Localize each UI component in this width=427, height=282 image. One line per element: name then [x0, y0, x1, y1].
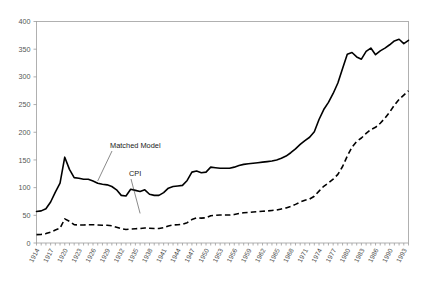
series-line-cpi	[37, 91, 409, 235]
x-tick-label: 1932	[112, 247, 125, 264]
x-tick-label: 1953	[211, 247, 224, 264]
plot-area-frame	[37, 22, 409, 244]
x-tick-label: 1917	[42, 247, 55, 264]
x-tick-label: 1929	[98, 247, 111, 264]
x-tick-label: 1941	[155, 247, 168, 264]
y-axis-labels: 050100150200250300350400	[19, 17, 31, 248]
x-tick-label: 1971	[296, 247, 309, 264]
y-tick-label: 300	[19, 72, 31, 81]
x-tick-label: 1926	[84, 247, 97, 264]
x-tick-label: 1956	[225, 247, 238, 264]
x-tick-label: 1914	[28, 247, 41, 264]
x-tick-label: 1950	[197, 247, 210, 264]
annotation-leader-cpi	[131, 179, 140, 213]
line-chart: 050100150200250300350400 191419171920192…	[0, 0, 427, 282]
x-tick-label: 1944	[169, 247, 182, 264]
y-tick-label: 0	[27, 239, 31, 248]
x-tick-label: 1938	[141, 247, 154, 264]
x-tick-label: 1974	[310, 247, 323, 264]
x-tick-label: 1977	[324, 247, 337, 264]
x-tick-label: 1986	[367, 247, 380, 264]
x-tick-label: 1990	[381, 247, 394, 264]
x-tick-label: 1993	[395, 247, 408, 264]
y-tick-label: 400	[19, 17, 31, 26]
x-tick-label: 1962	[254, 247, 267, 264]
y-tick-label: 200	[19, 128, 31, 137]
y-tick-label: 100	[19, 183, 31, 192]
x-tick-label: 1980	[338, 247, 351, 264]
x-tick-label: 1935	[126, 247, 139, 264]
y-tick-label: 350	[19, 45, 31, 54]
y-tick-label: 150	[19, 156, 31, 165]
x-tick-label: 1983	[352, 247, 365, 264]
x-tick-label: 1965	[268, 247, 281, 264]
series-line-matched-model	[37, 39, 409, 211]
annotation-leader-matched-model	[98, 151, 112, 181]
y-tick-label: 250	[19, 100, 31, 109]
x-tick-label: 1923	[70, 247, 83, 264]
annotation-label-matched-model: Matched Model	[110, 141, 161, 150]
x-tick-label: 1968	[282, 247, 295, 264]
chart-container: 050100150200250300350400 191419171920192…	[0, 0, 427, 282]
annotation-label-cpi: CPI	[129, 169, 141, 178]
x-axis-labels: 1914191719201923192619291932193519381941…	[28, 247, 409, 264]
x-tick-label: 1959	[239, 247, 252, 264]
y-tick-label: 50	[23, 211, 31, 220]
x-tick-label: 1947	[183, 247, 196, 264]
x-tick-label: 1920	[56, 247, 69, 264]
